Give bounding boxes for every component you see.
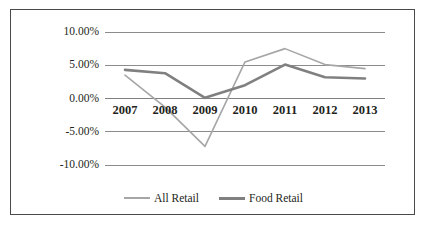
legend-item-all-retail[interactable]: All Retail <box>124 192 199 204</box>
y-axis-tick-label: 0.00% <box>69 93 99 105</box>
legend-label: Food Retail <box>249 192 303 204</box>
legend-swatch-icon <box>124 197 150 199</box>
x-axis-tick-label: 2013 <box>343 104 387 117</box>
x-axis-tick-label: 2007 <box>103 104 147 117</box>
legend-swatch-icon <box>219 197 245 200</box>
y-axis-tick-label: -10.00% <box>60 159 99 171</box>
x-axis-tick-label: 2008 <box>143 104 187 117</box>
y-axis-tick-label: 10.00% <box>64 26 99 38</box>
chart-legend: All Retail Food Retail <box>0 192 427 204</box>
legend-label: All Retail <box>154 192 199 204</box>
x-axis-tick-label: 2009 <box>183 104 227 117</box>
chart-container: 10.00%5.00%0.00%-5.00%-10.00% 2007200820… <box>0 0 427 226</box>
x-axis-tick-label: 2010 <box>223 104 267 117</box>
y-axis-tick-label: -5.00% <box>65 126 99 138</box>
x-axis-tick-label: 2012 <box>303 104 347 117</box>
legend-item-food-retail[interactable]: Food Retail <box>219 192 303 204</box>
y-axis-tick-label: 5.00% <box>69 59 99 71</box>
x-axis-tick-label: 2011 <box>263 104 307 117</box>
